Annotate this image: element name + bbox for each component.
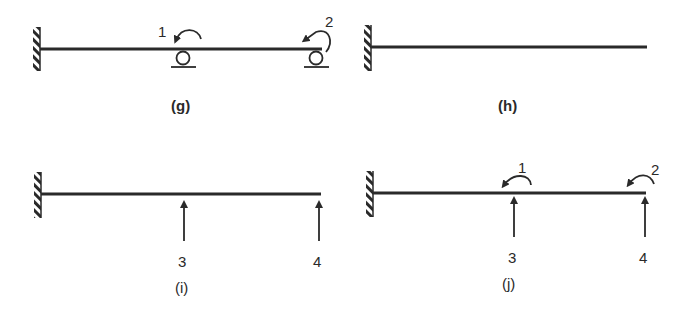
panel-caption: (g) [171,97,190,114]
panel-i: 3 4 (i) [34,172,321,296]
panel-h: (h) [364,25,647,114]
dof-label: 2 [325,13,333,30]
fixed-wall-icon [34,172,41,218]
dof-label: 3 [178,253,186,270]
dof-label: 4 [639,249,647,266]
dof-label: 1 [518,159,526,176]
roller-support-icon [304,52,329,68]
panel-caption: (j) [502,275,515,292]
dof-label: 4 [313,253,321,270]
fixed-wall-icon [364,25,371,71]
dof-label: 3 [508,249,516,266]
moment-arrow-icon [504,176,531,185]
panel-caption: (h) [498,97,517,114]
beam-dof-diagram: 1 2 (g) (h) 3 4 (i) 1 2 3 [0,0,688,316]
panel-j: 1 2 3 4 (j) [366,159,659,292]
fixed-wall-icon [366,171,373,217]
moment-arrow-icon [176,30,201,40]
roller-support-icon [171,52,196,68]
dof-label: 2 [651,161,659,178]
fixed-wall-icon [33,27,40,71]
panel-caption: (i) [175,279,188,296]
dof-label: 1 [158,23,166,40]
panel-g: 1 2 (g) [33,13,333,114]
